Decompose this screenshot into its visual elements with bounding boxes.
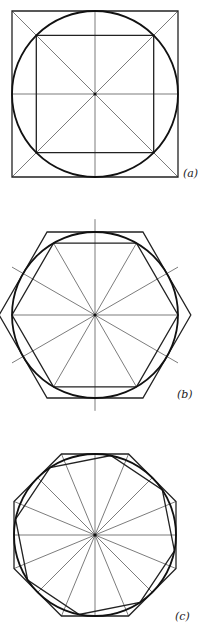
radial-line [95,315,137,387]
radial-line [54,315,96,387]
radial-line [95,11,178,94]
radial-line [38,478,95,535]
figure-c-label: (c) [175,610,190,623]
figure-a-label: (a) [183,167,198,180]
radial-line [12,315,95,363]
center-point [93,533,96,536]
figure-c [14,454,176,616]
radial-line [95,243,137,315]
figure-b-label: (b) [177,388,193,401]
radial-line [12,267,95,315]
figure-b [0,219,191,411]
polygon-approximation-diagram: (a) (b) (c) [0,0,203,632]
radial-line [38,535,95,592]
radial-line [12,11,95,94]
center-point [93,313,96,316]
radial-line [95,535,152,592]
figure-a [12,11,178,177]
radial-line [95,267,178,315]
radial-line [54,243,96,315]
radial-line [95,94,178,177]
radial-line [12,94,95,177]
radial-line [95,478,152,535]
radial-line [95,315,178,363]
center-point [93,92,96,95]
